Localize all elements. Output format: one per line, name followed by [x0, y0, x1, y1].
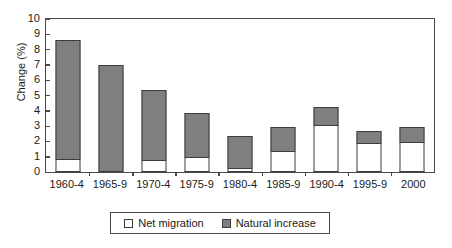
y-tick-label: 5 — [34, 89, 40, 102]
x-axis-labels: 1960-41965-91970-41975-91980-41985-91990… — [45, 178, 435, 190]
legend-item-net-migration: Net migration — [124, 217, 203, 229]
bar-segment-natural-increase[interactable] — [141, 90, 166, 161]
chart-legend: Net migration Natural increase — [110, 212, 330, 234]
legend-item-natural-increase: Natural increase — [222, 217, 316, 229]
y-axis-title: Change (%) — [15, 7, 27, 137]
x-tick-mark — [175, 172, 176, 176]
y-tick-label: 2 — [34, 134, 40, 147]
bar-slot — [305, 19, 348, 172]
y-tick-label: 0 — [34, 165, 40, 178]
y-tick-label: 10 — [28, 12, 40, 25]
bar-slot — [175, 19, 218, 172]
bar-slot — [218, 19, 261, 172]
bar-stack[interactable] — [314, 107, 339, 172]
bar-slot — [348, 19, 391, 172]
x-tick-mark — [89, 172, 90, 176]
plot-area: 109876543210 — [45, 18, 435, 173]
legend-label-net-migration: Net migration — [138, 217, 203, 229]
bar-segment-natural-increase[interactable] — [314, 107, 339, 126]
x-axis-label: 1970-4 — [132, 178, 175, 190]
y-tick-label: 8 — [34, 43, 40, 56]
bar-slot — [46, 19, 89, 172]
x-tick-mark — [348, 172, 349, 176]
bar-segment-natural-increase[interactable] — [98, 65, 123, 172]
bar-slot — [391, 19, 434, 172]
bar-stack[interactable] — [357, 131, 382, 172]
x-axis-label: 1975-9 — [175, 178, 218, 190]
legend-label-natural-increase: Natural increase — [236, 217, 316, 229]
x-axis-label: 1990-4 — [305, 178, 348, 190]
bar-segment-net-migration[interactable] — [271, 152, 296, 172]
y-tick-label: 6 — [34, 73, 40, 86]
bar-segment-net-migration[interactable] — [55, 160, 80, 172]
bar-segment-net-migration[interactable] — [184, 158, 209, 172]
bar-stack[interactable] — [55, 40, 80, 172]
y-tick-label: 1 — [34, 150, 40, 163]
bar-segment-natural-increase[interactable] — [400, 127, 425, 143]
bar-stack[interactable] — [98, 65, 123, 172]
stacked-bar-chart: Change (%) 109876543210 1960-41965-91970… — [0, 0, 452, 248]
bar-stack[interactable] — [400, 127, 425, 172]
bar-segment-natural-increase[interactable] — [184, 113, 209, 158]
bar-segment-net-migration[interactable] — [227, 169, 252, 172]
x-axis-label: 1985-9 — [262, 178, 305, 190]
bar-stack[interactable] — [227, 136, 252, 172]
x-axis-label: 2000 — [392, 178, 435, 190]
x-axis-label: 1995-9 — [348, 178, 391, 190]
y-tick-label: 7 — [34, 58, 40, 71]
x-axis-label: 1960-4 — [45, 178, 88, 190]
x-tick-mark — [132, 172, 133, 176]
bar-segment-natural-increase[interactable] — [55, 40, 80, 159]
bars-layer — [46, 19, 434, 172]
bar-stack[interactable] — [141, 90, 166, 172]
bar-slot — [89, 19, 132, 172]
bar-stack[interactable] — [271, 127, 296, 172]
bar-stack[interactable] — [184, 113, 209, 172]
y-tick-label: 3 — [34, 119, 40, 132]
bar-slot — [262, 19, 305, 172]
y-tick-label: 9 — [34, 27, 40, 40]
x-tick-mark — [305, 172, 306, 176]
x-axis-label: 1980-4 — [218, 178, 261, 190]
x-tick-mark — [391, 172, 392, 176]
bar-segment-net-migration[interactable] — [141, 161, 166, 172]
white-square-icon — [124, 219, 133, 228]
bar-segment-natural-increase[interactable] — [227, 136, 252, 169]
x-tick-mark — [218, 172, 219, 176]
bar-slot — [132, 19, 175, 172]
bar-segment-net-migration[interactable] — [314, 126, 339, 172]
bar-segment-net-migration[interactable] — [400, 143, 425, 172]
x-tick-mark — [262, 172, 263, 176]
gray-square-icon — [222, 219, 231, 228]
y-tick-label: 4 — [34, 104, 40, 117]
bar-segment-natural-increase[interactable] — [357, 131, 382, 144]
bar-segment-natural-increase[interactable] — [271, 127, 296, 152]
bar-segment-net-migration[interactable] — [357, 144, 382, 172]
x-axis-label: 1965-9 — [88, 178, 131, 190]
